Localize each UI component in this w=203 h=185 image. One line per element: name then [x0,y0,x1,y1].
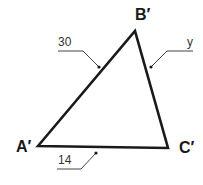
vertex-c-label: C′ [179,139,195,156]
leader-side-ab [58,51,101,69]
side-bc-label: y [187,35,193,49]
triangle-diagram: 30 y 14 B′ A′ C′ [0,0,203,185]
vertex-b-label: B′ [135,6,151,23]
side-ab-label: 30 [58,35,72,49]
leader-side-bc [149,51,193,69]
side-ac-label: 14 [58,153,72,167]
vertex-a-label: A′ [16,138,32,155]
